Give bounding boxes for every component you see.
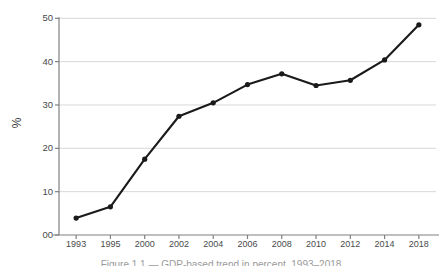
data-point — [313, 83, 318, 88]
figure-caption: Figure 1.1 — GDP-based trend in percent,… — [0, 259, 442, 266]
data-point — [142, 157, 147, 162]
data-point — [108, 204, 113, 209]
data-point — [176, 114, 181, 119]
axis-lines — [53, 17, 439, 235]
data-point — [382, 57, 387, 62]
data-point — [211, 100, 216, 105]
series-line — [76, 25, 419, 218]
data-series — [74, 22, 422, 220]
data-point — [245, 82, 250, 87]
data-point — [74, 215, 79, 220]
data-point — [416, 22, 421, 27]
gridlines — [59, 18, 436, 191]
data-point — [348, 78, 353, 83]
plot-area — [0, 0, 442, 266]
line-chart: % 001020304050 1993199520002002200420062… — [0, 0, 442, 266]
data-point — [279, 71, 284, 76]
